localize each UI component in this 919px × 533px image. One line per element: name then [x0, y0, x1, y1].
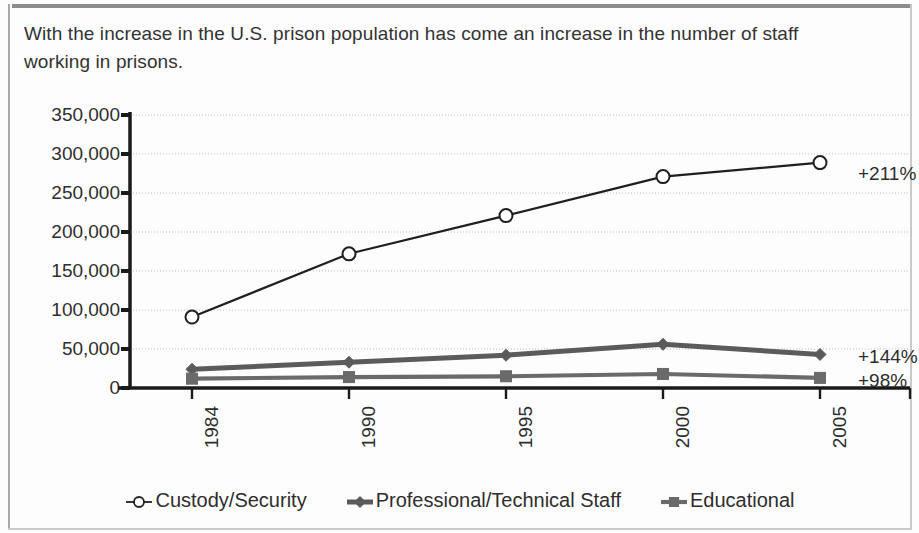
data-point-marker — [343, 247, 356, 260]
diamond-icon — [345, 492, 375, 508]
data-point-marker — [186, 311, 199, 324]
data-point-marker — [187, 373, 198, 384]
legend-item[interactable]: Professional/Technical Staff — [345, 489, 621, 512]
open-circle-icon — [124, 492, 154, 508]
square-icon — [659, 492, 689, 508]
data-point-marker — [343, 356, 355, 368]
chart-page: With the increase in the U.S. prison pop… — [0, 0, 919, 533]
line-chart — [0, 100, 919, 400]
series-percent-annotation: +98% — [858, 370, 907, 392]
chart-legend: Custody/SecurityProfessional/Technical S… — [0, 480, 919, 520]
data-point-marker — [344, 372, 355, 383]
gridlines — [130, 115, 908, 349]
data-point-marker — [500, 349, 512, 361]
data-point-marker — [501, 371, 512, 382]
series-percent-annotation: +144% — [858, 346, 918, 368]
data-point-marker — [814, 348, 826, 360]
top-divider — [12, 4, 912, 8]
x-axis-tick-label: 2000 — [672, 406, 694, 448]
chart-plot-area — [0, 100, 919, 400]
x-axis-tick-label: 1995 — [515, 406, 537, 448]
legend-label: Custody/Security — [155, 489, 306, 512]
data-point-marker — [657, 170, 670, 183]
series-layer — [186, 156, 827, 384]
legend-label: Educational — [690, 489, 795, 512]
data-point-marker — [814, 156, 827, 169]
data-point-marker — [500, 209, 513, 222]
x-axis-tick-label: 1984 — [201, 406, 223, 448]
bottom-border — [8, 528, 912, 530]
data-point-marker — [815, 372, 826, 383]
legend-item[interactable]: Educational — [659, 489, 795, 512]
chart-caption: With the increase in the U.S. prison pop… — [24, 20, 864, 76]
data-point-marker — [658, 368, 669, 379]
series-line — [192, 163, 820, 317]
x-axis-labels: 19841990199520002005 — [0, 398, 919, 478]
legend-item[interactable]: Custody/Security — [124, 489, 306, 512]
legend-label: Professional/Technical Staff — [376, 489, 621, 512]
series-percent-annotation: +211% — [858, 163, 916, 185]
x-axis-tick-label: 2005 — [829, 406, 851, 448]
x-axis-tick-label: 1990 — [358, 406, 380, 448]
